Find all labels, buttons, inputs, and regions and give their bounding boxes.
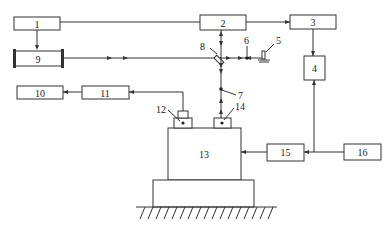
- svg-text:8: 8: [200, 41, 205, 52]
- sensor-12: [174, 111, 192, 128]
- svg-text:5: 5: [276, 35, 281, 46]
- block-1: 1: [14, 17, 60, 30]
- block-11: 11: [82, 86, 129, 99]
- target-14: [214, 118, 231, 128]
- svg-text:7: 7: [238, 90, 243, 101]
- block-9-laser: 9: [13, 49, 64, 68]
- svg-text:12: 12: [156, 104, 166, 115]
- svg-text:16: 16: [358, 147, 368, 158]
- block-2: 2: [200, 15, 246, 30]
- svg-text:15: 15: [281, 147, 291, 158]
- svg-text:13: 13: [199, 149, 209, 160]
- diagram-canvas: 1 2 3 4 9 10 11 13: [0, 0, 392, 234]
- block-3: 3: [290, 15, 336, 29]
- svg-text:14: 14: [235, 101, 245, 112]
- callouts: 8 6 5 7 14 12: [156, 35, 281, 121]
- svg-text:1: 1: [35, 19, 40, 30]
- svg-text:11: 11: [100, 88, 110, 99]
- block-4: 4: [304, 56, 325, 80]
- block-13-shaker: 13: [168, 128, 241, 180]
- svg-text:4: 4: [312, 63, 317, 74]
- block-15: 15: [267, 144, 304, 161]
- base-platform: [136, 180, 277, 219]
- svg-text:2: 2: [221, 18, 226, 29]
- block-16: 16: [344, 144, 381, 160]
- svg-text:10: 10: [35, 88, 45, 99]
- svg-text:3: 3: [311, 17, 316, 28]
- svg-text:6: 6: [244, 35, 249, 46]
- svg-text:9: 9: [36, 54, 41, 65]
- block-10: 10: [17, 86, 63, 99]
